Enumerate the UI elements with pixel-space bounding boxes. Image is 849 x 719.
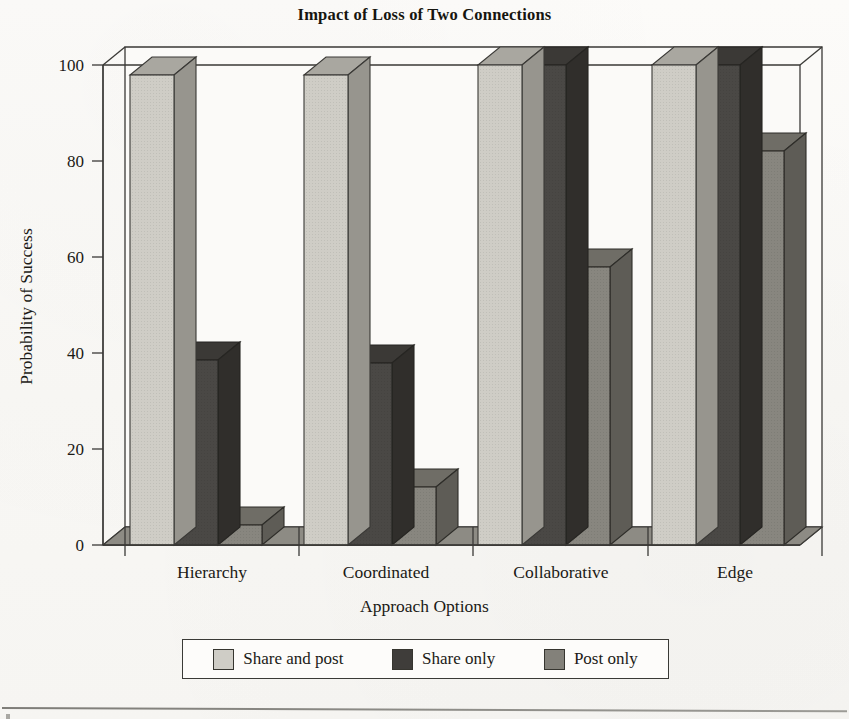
- bar-coordinated-share-and-post: [304, 57, 370, 545]
- y-axis-ticks: [92, 65, 103, 545]
- y-tick-label-100: 100: [38, 57, 84, 74]
- y-tick-label-20: 20: [38, 441, 84, 458]
- legend-label-share-only: Share only: [422, 649, 495, 669]
- page-margin-mark: [6, 714, 10, 719]
- y-tick-label-40: 40: [38, 345, 84, 362]
- chart-plot-area: 100 80 60 40 20 0 Hierarchy Coordinated …: [0, 0, 849, 660]
- y-axis-label: Probability of Success: [16, 197, 37, 417]
- x-axis-label: Approach Options: [0, 596, 849, 617]
- bar-hierarchy-share-and-post: [130, 57, 196, 545]
- legend-entry-share-and-post[interactable]: Share and post: [213, 649, 343, 670]
- dark-gray-swatch-icon: [392, 649, 413, 670]
- y-tick-label-0: 0: [38, 537, 84, 554]
- x-tick-label-collaborative: Collaborative: [466, 562, 656, 583]
- chart-svg: [0, 0, 849, 660]
- legend-entry-share-only[interactable]: Share only: [392, 649, 495, 670]
- bar-collaborative-share-and-post: [478, 47, 544, 545]
- chart-legend: Share and post Share only Post only: [182, 639, 669, 679]
- legend-label-share-and-post: Share and post: [243, 649, 343, 669]
- x-tick-label-edge: Edge: [640, 562, 830, 583]
- medium-gray-swatch-icon: [544, 649, 565, 670]
- x-tick-label-hierarchy: Hierarchy: [117, 562, 307, 583]
- legend-entry-post-only[interactable]: Post only: [544, 649, 638, 670]
- light-gray-swatch-icon: [213, 649, 234, 670]
- legend-label-post-only: Post only: [574, 649, 638, 669]
- y-tick-label-60: 60: [38, 249, 84, 266]
- y-tick-label-80: 80: [38, 153, 84, 170]
- x-tick-label-coordinated: Coordinated: [291, 562, 481, 583]
- bar-edge-share-and-post: [652, 47, 718, 545]
